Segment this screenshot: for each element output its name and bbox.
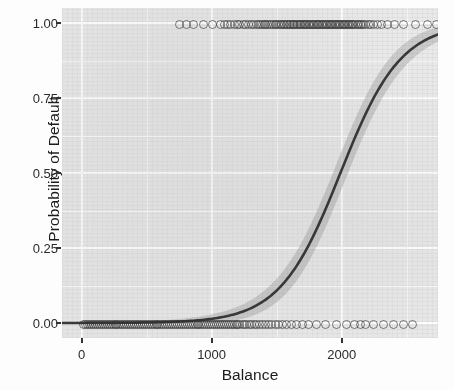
x-axis-title: Balance xyxy=(62,366,438,384)
data-point xyxy=(379,320,388,329)
chart-figure: Probability of Default Balance 0.000.250… xyxy=(0,0,454,390)
x-tick-mark xyxy=(341,338,343,343)
data-point xyxy=(399,20,408,29)
y-tick-mark xyxy=(56,22,61,24)
y-tick-mark xyxy=(56,97,61,99)
plot-panel xyxy=(62,8,438,338)
x-tick-label: 0 xyxy=(42,347,122,362)
x-tick-mark xyxy=(211,338,213,343)
x-tick-label: 2000 xyxy=(302,347,382,362)
data-point xyxy=(411,20,420,29)
fit-curve-layer xyxy=(62,8,438,338)
x-tick-label: 1000 xyxy=(172,347,252,362)
y-tick-label: 1.00 xyxy=(14,16,58,31)
y-tick-mark xyxy=(56,172,61,174)
clipped-title-text xyxy=(62,0,438,2)
data-point xyxy=(199,20,208,29)
data-point xyxy=(332,320,341,329)
y-tick-label: 0.25 xyxy=(14,241,58,256)
data-point xyxy=(389,320,398,329)
confidence-band xyxy=(62,27,438,323)
y-tick-mark xyxy=(56,247,61,249)
data-point xyxy=(321,320,330,329)
y-tick-mark xyxy=(56,322,61,324)
data-point xyxy=(312,320,321,329)
data-point xyxy=(189,20,198,29)
y-tick-label: 0.75 xyxy=(14,91,58,106)
data-point xyxy=(432,20,438,29)
data-point xyxy=(423,20,432,29)
y-tick-label: 0.50 xyxy=(14,166,58,181)
data-point xyxy=(408,320,417,329)
x-tick-mark xyxy=(81,338,83,343)
y-tick-label: 0.00 xyxy=(14,316,58,331)
data-point xyxy=(369,320,378,329)
data-point xyxy=(399,320,408,329)
data-point xyxy=(390,20,399,29)
